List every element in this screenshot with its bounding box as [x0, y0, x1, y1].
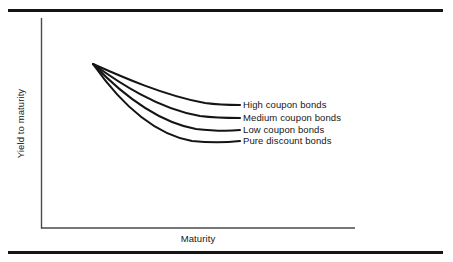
curve-label-medium-coupon: Medium coupon bonds — [243, 113, 341, 123]
figure-container: High coupon bonds Medium coupon bonds Lo… — [0, 0, 453, 262]
curve-label-pure-discount: Pure discount bonds — [243, 136, 332, 146]
y-axis-title: Yield to maturity — [15, 64, 26, 184]
x-axis-title: Maturity — [41, 233, 355, 244]
yield-curves — [93, 64, 240, 142]
chart-plot — [0, 0, 453, 262]
curve-label-high-coupon: High coupon bonds — [243, 100, 327, 110]
curve-label-low-coupon: Low coupon bonds — [243, 125, 324, 135]
